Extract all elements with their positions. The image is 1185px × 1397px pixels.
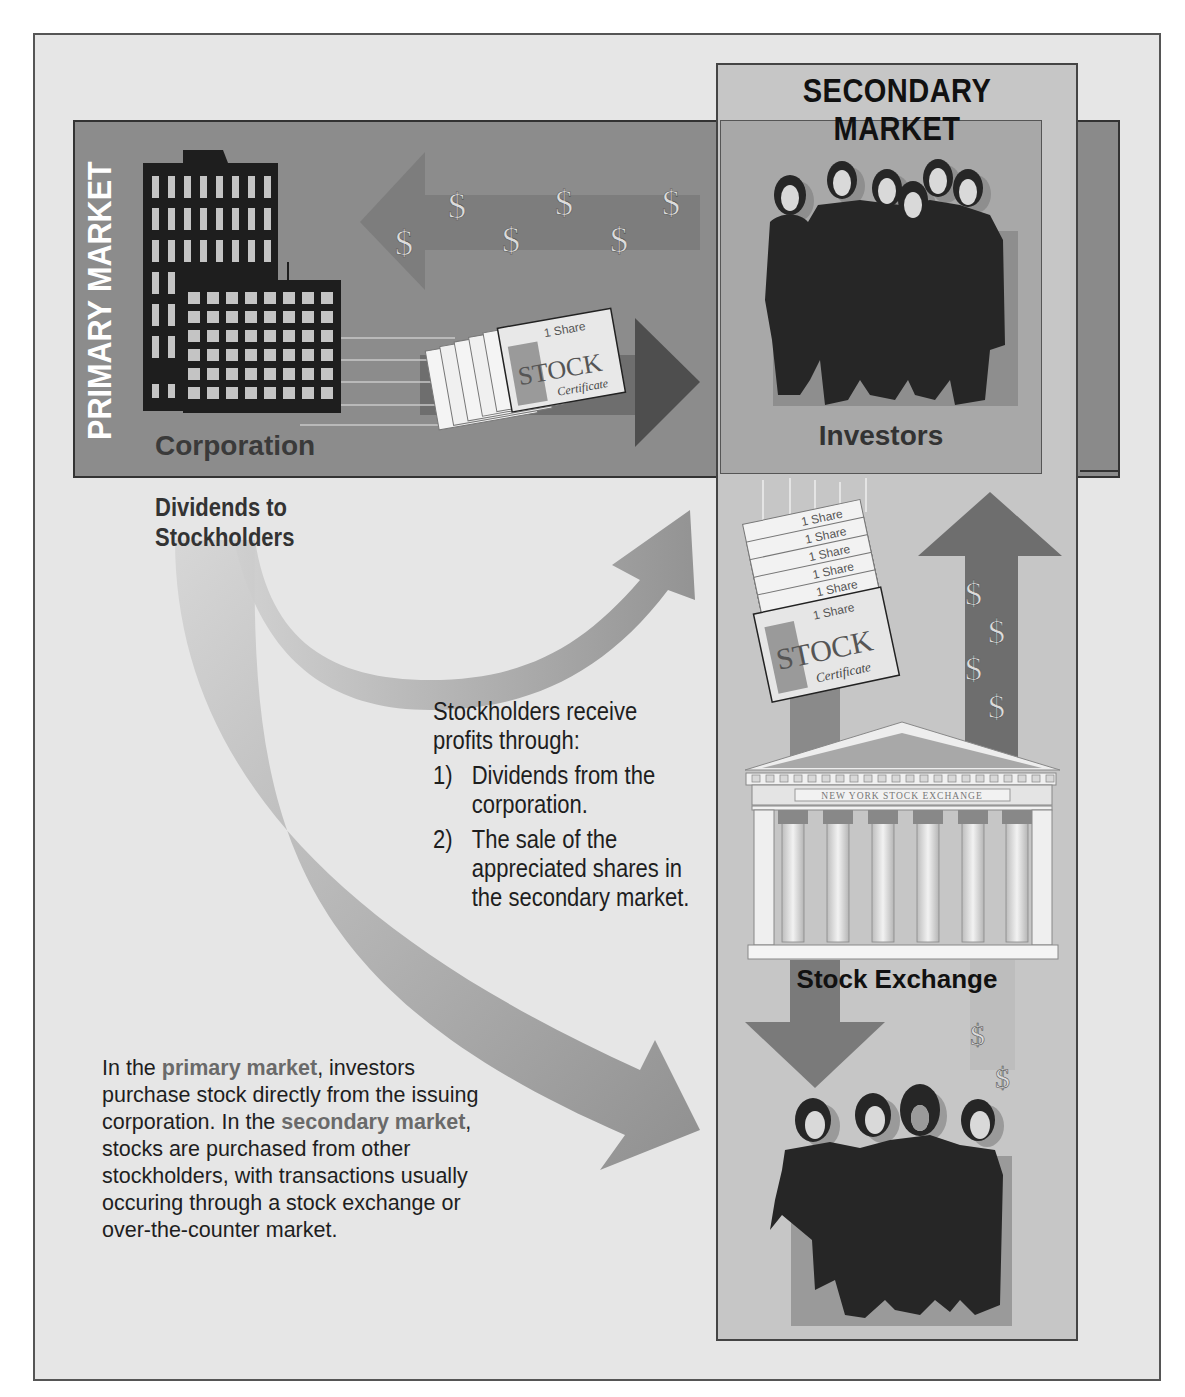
svg-text:$: $ — [502, 220, 520, 260]
svg-text:$: $ — [965, 575, 982, 612]
primary-market-title: PRIMARY MARKET — [80, 170, 119, 440]
profits-item-number: 2) — [433, 825, 472, 912]
market-explanation: In the primary market, investors purchas… — [102, 1055, 482, 1244]
dollar-up-arrow: $ $ $ $ — [918, 492, 1062, 760]
dividends-label: Dividends to Stockholders — [155, 492, 294, 552]
investors-group-icon — [765, 159, 1018, 406]
svg-text:$: $ — [995, 1061, 1010, 1094]
secondary-market-title: SECONDARY MARKET — [738, 72, 1057, 148]
dividends-arrow — [235, 510, 695, 710]
profits-item: 1) Dividends from the corporation. — [433, 761, 715, 819]
profits-intro-line2: profits through: — [433, 726, 715, 755]
profits-item: 2) The sale of the appreciated shares in… — [433, 825, 715, 912]
dividends-label-line1: Dividends to — [155, 492, 294, 522]
svg-text:$: $ — [988, 613, 1005, 650]
investors-label: Investors — [720, 420, 1042, 452]
profits-item-number: 1) — [433, 761, 472, 819]
svg-text:$: $ — [662, 183, 680, 223]
stock-certificate-stack-secondary: 1 Share1 Share1 Share1 Share1 Share 1 Sh… — [735, 499, 900, 702]
stock-exchange-building-icon: NEW YORK STOCK EXCHANGE — [745, 722, 1060, 959]
new-investors-group-icon — [770, 1084, 1012, 1326]
profits-note: Stockholders receive profits through: 1)… — [433, 697, 715, 912]
svg-text:$: $ — [970, 1018, 985, 1051]
svg-text:$: $ — [395, 223, 413, 263]
svg-text:$: $ — [988, 688, 1005, 725]
profits-item-text: Dividends from the corporation. — [472, 761, 715, 819]
svg-text:$: $ — [555, 183, 573, 223]
svg-text:$: $ — [448, 186, 466, 226]
svg-text:$: $ — [965, 650, 982, 687]
profits-intro-line1: Stockholders receive — [433, 697, 715, 726]
stock-exchange-label: Stock Exchange — [716, 964, 1078, 995]
explanation-text: In the — [102, 1056, 162, 1080]
corporation-building-icon — [143, 150, 341, 413]
exchange-building-sign: NEW YORK STOCK EXCHANGE — [821, 791, 982, 801]
svg-text:$: $ — [610, 220, 628, 260]
corporation-label: Corporation — [155, 430, 315, 462]
profits-item-text: The sale of the appreciated shares in th… — [472, 825, 715, 912]
dollar-flow-arrow-left: $ $ $ $ $ $ — [360, 152, 700, 290]
secondary-market-term: secondary market — [281, 1110, 465, 1134]
dividends-label-line2: Stockholders — [155, 522, 294, 552]
primary-market-term: primary market — [162, 1056, 317, 1080]
